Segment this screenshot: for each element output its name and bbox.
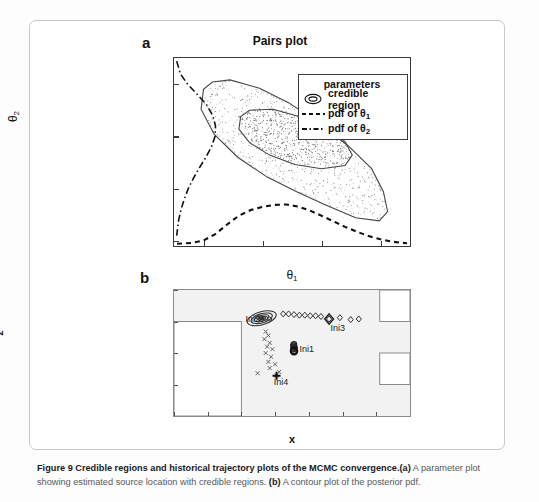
trajectory-plot-ytick-mark <box>174 353 178 354</box>
ini-label-ini3: Ini3 <box>330 323 345 333</box>
pairs-plot-ytick-mark <box>174 189 179 190</box>
ini-label-ini2: Ini2 <box>245 314 260 324</box>
trajectory-plot-xtick-mark <box>376 412 377 416</box>
caption-tag-b: (b) <box>269 477 281 487</box>
trajectory-plot-canvas <box>174 290 410 416</box>
ini-label-ini1: Ini1 <box>299 344 314 354</box>
trajectory-plot-xtick-mark <box>241 412 242 416</box>
contour-ellipse-icon <box>301 93 326 105</box>
panel-a-letter: a <box>142 34 150 51</box>
pairs-plot-xtick-mark <box>204 241 205 246</box>
trajectory-plot-xtick-mark <box>309 412 310 416</box>
dashdot-line-icon <box>301 123 326 135</box>
pairs-plot-ytick-mark <box>174 84 179 85</box>
trajectory-plot-xlabel: x <box>173 433 411 445</box>
dashed-line-icon <box>301 108 326 120</box>
trajectory-plot-axes: 0−0.5−1−1.5−2−1−0.500.511.522.5 Ini1Ini2… <box>173 289 411 417</box>
trajectory-plot-ylabel: z <box>0 330 5 336</box>
pairs-plot-ytick-mark <box>174 136 179 137</box>
pairs-plot-axes: parameters credible region <box>173 57 411 247</box>
pairs-plot-xtick-mark <box>322 241 323 246</box>
pairs-plot-ylabel: θ2 <box>6 111 21 122</box>
pairs-plot-ytick-mark <box>174 241 179 242</box>
trajectory-plot-ytick-mark <box>174 290 178 291</box>
panel-b: b 0−0.5−1−1.5−2−1−0.500.511.522.5 Ini1In… <box>30 269 506 451</box>
caption-tag-a: (a) <box>399 463 410 473</box>
legend-label-pdf-theta2: pdf of θ2 <box>328 122 370 136</box>
trajectory-plot-xtick-mark <box>275 412 276 416</box>
panel-b-letter: b <box>140 269 149 286</box>
trajectory-plot-ytick-mark <box>174 385 178 386</box>
pairs-plot-xtick-mark <box>381 241 382 246</box>
trajectory-plot-xtick-mark <box>410 412 411 416</box>
pairs-plot-xtick-mark <box>263 241 264 246</box>
figure-caption: Figure 9 Credible regions and historical… <box>37 462 492 490</box>
pdf-theta2-curve <box>177 61 216 236</box>
trajectory-plot-ytick-mark <box>174 416 178 417</box>
trajectory-plot-xtick-mark <box>174 412 175 416</box>
legend-label-pdf-theta1: pdf of θ1 <box>328 107 370 121</box>
figure-card: a Pairs plot parameters <box>29 20 505 450</box>
panel-a-title: Pairs plot <box>200 34 360 48</box>
panel-a: a Pairs plot parameters <box>30 21 506 271</box>
caption-bold-lead: Figure 9 Credible regions and historical… <box>37 463 399 473</box>
caption-text-b: A contour plot of the posterior pdf. <box>281 477 421 487</box>
pdf-theta1-curve <box>177 205 407 244</box>
legend-item-credible-region: credible region <box>301 91 403 106</box>
pairs-plot-legend: parameters credible region <box>298 74 408 140</box>
trajectory-plot-xtick-mark <box>343 412 344 416</box>
legend-item-pdf-theta2: pdf of θ2 <box>301 121 403 136</box>
trajectory-plot-xtick-mark <box>208 412 209 416</box>
figure-page: a Pairs plot parameters <box>0 0 539 502</box>
trajectory-plot-ytick-mark <box>174 322 178 323</box>
ini-label-ini4: Ini4 <box>274 377 289 387</box>
